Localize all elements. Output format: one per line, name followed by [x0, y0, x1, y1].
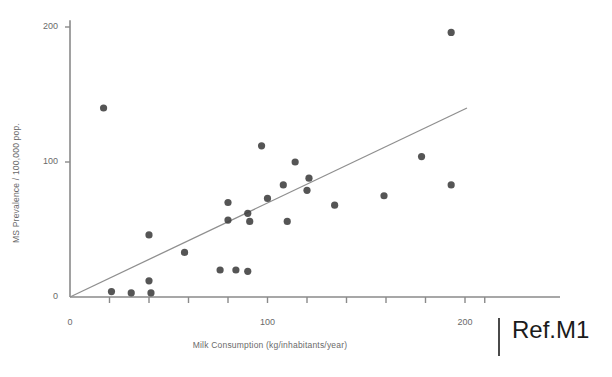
- data-point: [246, 218, 253, 225]
- data-point: [224, 216, 231, 223]
- data-point: [303, 187, 310, 194]
- data-point: [232, 266, 239, 273]
- data-point: [224, 199, 231, 206]
- data-point: [258, 142, 265, 149]
- data-point: [181, 249, 188, 256]
- data-point: [100, 104, 107, 111]
- data-point: [108, 288, 115, 295]
- data-point: [380, 192, 387, 199]
- data-point: [145, 231, 152, 238]
- plot-axes: [65, 20, 560, 303]
- trend-line: [70, 108, 467, 297]
- data-point: [448, 181, 455, 188]
- scatter-plot-figure: MS Prevalence / 100,000 pop. Milk Consum…: [0, 0, 612, 377]
- y-tick-label: 0: [28, 291, 58, 301]
- data-point: [217, 266, 224, 273]
- x-axis-label: Milk Consumption (kg/inhabitants/year): [120, 340, 420, 350]
- x-tick-label: 0: [53, 317, 87, 327]
- data-points: [100, 29, 455, 297]
- data-point: [244, 210, 251, 217]
- y-tick-label: 100: [28, 156, 58, 166]
- x-tick-label: 200: [448, 317, 482, 327]
- data-point: [147, 289, 154, 296]
- data-point: [264, 195, 271, 202]
- data-point: [128, 289, 135, 296]
- data-point: [244, 268, 251, 275]
- reference-divider: [498, 318, 500, 356]
- data-point: [145, 277, 152, 284]
- x-tick-label: 100: [251, 317, 285, 327]
- reference-note: Ref.M1: [512, 316, 589, 344]
- data-point: [284, 218, 291, 225]
- data-point: [418, 153, 425, 160]
- data-point: [280, 181, 287, 188]
- data-point: [292, 158, 299, 165]
- data-point: [448, 29, 455, 36]
- data-point: [331, 202, 338, 209]
- y-tick-label: 200: [28, 21, 58, 31]
- data-point: [305, 175, 312, 182]
- y-axis-label: MS Prevalence / 100,000 pop.: [11, 83, 21, 283]
